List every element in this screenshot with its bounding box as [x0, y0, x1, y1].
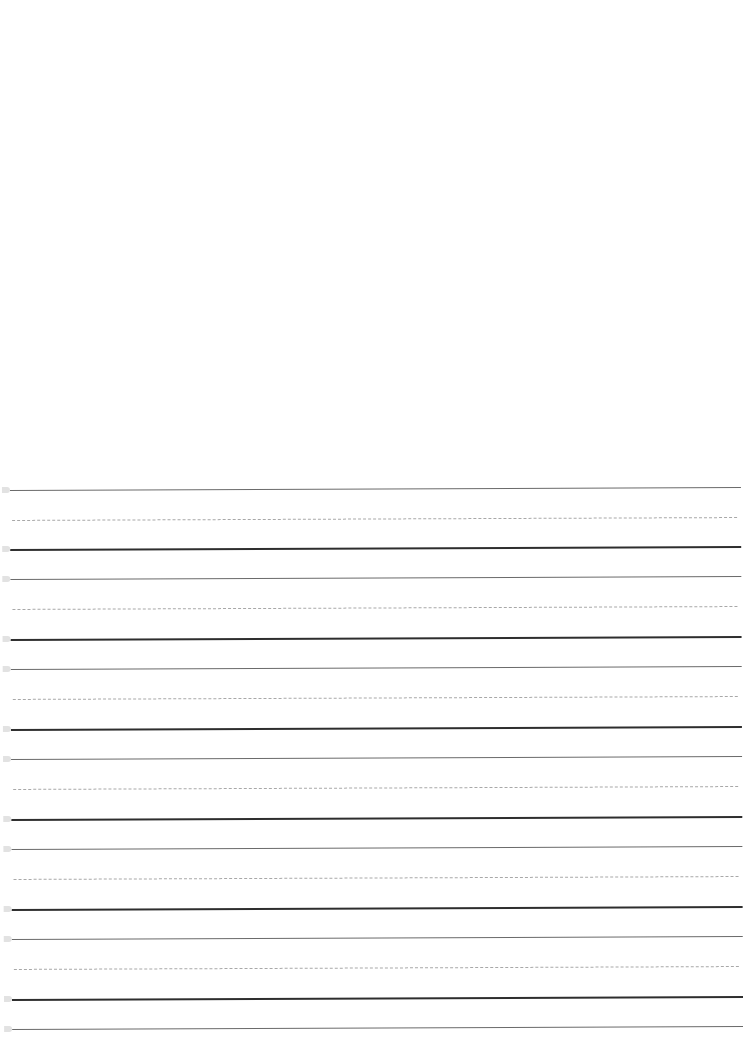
- line-edge-mark: [4, 936, 12, 942]
- baseline: [10, 546, 741, 551]
- midline-dashed: [12, 517, 737, 521]
- midline-dashed: [13, 786, 738, 790]
- top-line: [10, 576, 741, 580]
- baseline: [11, 726, 742, 731]
- top-line: [10, 487, 741, 491]
- line-edge-mark: [2, 546, 10, 552]
- top-line: [11, 846, 742, 850]
- top-line: [12, 936, 743, 940]
- line-edge-mark: [3, 726, 11, 732]
- top-line: [12, 1026, 743, 1030]
- baseline: [11, 636, 742, 641]
- line-edge-mark: [3, 756, 11, 762]
- line-edge-mark: [2, 487, 10, 493]
- baseline: [12, 906, 743, 911]
- top-line: [11, 756, 742, 760]
- line-edge-mark: [2, 576, 10, 582]
- line-edge-mark: [4, 906, 12, 912]
- midline-dashed: [14, 966, 739, 970]
- baseline: [11, 816, 742, 821]
- ruled-lines-group: [0, 0, 743, 1055]
- midline-dashed: [13, 696, 738, 700]
- baseline: [12, 996, 743, 1001]
- line-edge-mark: [3, 666, 11, 672]
- line-edge-mark: [4, 1026, 12, 1032]
- line-edge-mark: [4, 996, 12, 1002]
- midline-dashed: [12, 606, 737, 610]
- midline-dashed: [14, 876, 739, 880]
- line-edge-mark: [3, 846, 11, 852]
- top-line: [11, 666, 742, 670]
- line-edge-mark: [3, 816, 11, 822]
- line-edge-mark: [3, 636, 11, 642]
